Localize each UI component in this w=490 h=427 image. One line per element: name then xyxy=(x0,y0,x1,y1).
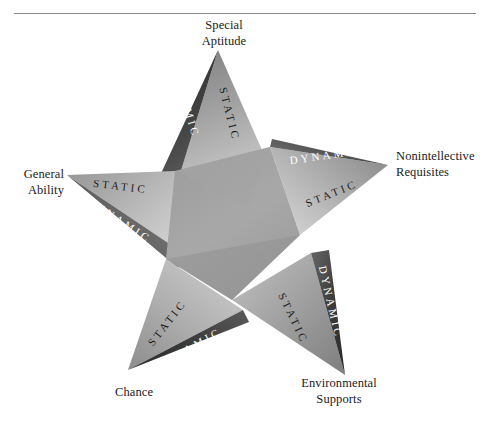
vertex-label-environmental-supports: Environmental Supports xyxy=(284,376,394,407)
vertex-label-nonintellective-requisites: Nonintellective Requisites xyxy=(396,149,490,180)
vertex-label-chance: Chance xyxy=(99,385,169,401)
vertex-label-general-ability: General Ability xyxy=(2,167,64,198)
vertex-label-special-aptitude: Special Aptitude xyxy=(176,18,272,49)
star-diagram-figure: DYNAMIC STATIC STATIC DYNAMIC DYNAMIC ST… xyxy=(0,0,490,427)
star-graphic: DYNAMIC STATIC STATIC DYNAMIC DYNAMIC ST… xyxy=(0,0,490,427)
